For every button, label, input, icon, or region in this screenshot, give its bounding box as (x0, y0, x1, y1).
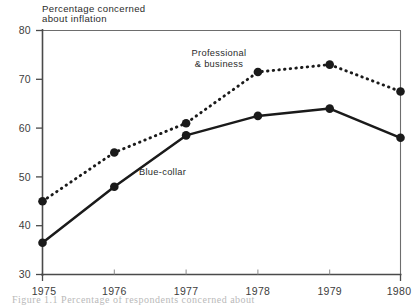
y-axis-label-70: 70 (19, 73, 31, 85)
data-point-professional-1977 (182, 119, 191, 128)
data-point-blue-collar-1975 (38, 238, 47, 247)
y-axis-ticks (36, 31, 42, 275)
data-point-professional-1975 (38, 197, 47, 206)
y-axis-label-60: 60 (19, 122, 31, 134)
y-axis-label-30: 30 (19, 268, 31, 280)
line-chart: Percentage concerned about inflation 30 … (0, 0, 419, 306)
annotation-professional-line-1: Professional (192, 48, 247, 58)
annotation-blue-collar: Blue-collar (139, 167, 186, 177)
series-line-blue-collar (43, 109, 401, 243)
series-annotation-professional-business: Professional & business (192, 48, 247, 69)
data-point-professional-1979 (325, 60, 334, 69)
annotation-professional-line-2: & business (195, 59, 244, 69)
chart-container: Percentage concerned about inflation 30 … (0, 0, 419, 306)
data-point-blue-collar-1978 (254, 112, 263, 121)
y-axis-label-40: 40 (19, 219, 31, 231)
data-point-blue-collar-1976 (110, 182, 119, 191)
series-markers-professional-business (38, 60, 405, 205)
data-point-blue-collar-1980 (396, 134, 405, 143)
figure-caption: Figure 1.1 Percentage of respondents con… (12, 296, 255, 305)
chart-title-line-2: about inflation (42, 13, 107, 24)
series-line-professional-business (43, 65, 401, 202)
data-point-professional-1976 (110, 148, 119, 157)
data-point-professional-1980 (396, 87, 405, 96)
y-axis-labels: 30 40 50 60 70 80 (19, 24, 31, 280)
data-point-blue-collar-1977 (182, 131, 191, 140)
y-axis-label-50: 50 (19, 171, 31, 183)
caption-strip: Figure 1.1 Percentage of respondents con… (0, 296, 419, 306)
data-point-professional-1978 (254, 68, 263, 77)
y-axis-label-80: 80 (19, 24, 31, 36)
data-point-blue-collar-1979 (325, 104, 334, 113)
